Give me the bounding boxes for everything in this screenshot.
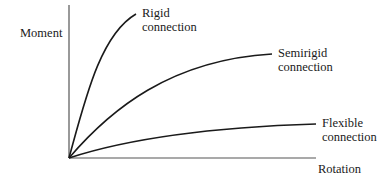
y-axis-label: Moment <box>20 26 62 40</box>
flexible-label-line1: Flexible <box>322 116 377 130</box>
flexible-connection-curve <box>69 124 316 158</box>
semirigid-label-line2: connection <box>278 60 333 74</box>
moment-rotation-diagram: Moment Rotation Rigid connection Semirig… <box>0 0 392 183</box>
rigid-connection-curve <box>69 14 136 158</box>
rigid-label-line2: connection <box>142 20 197 34</box>
rigid-connection-label: Rigid connection <box>142 6 197 34</box>
flexible-connection-label: Flexible connection <box>322 116 377 144</box>
semirigid-label-line1: Semirigid <box>278 46 333 60</box>
semirigid-connection-label: Semirigid connection <box>278 46 333 74</box>
semirigid-connection-curve <box>69 54 272 158</box>
flexible-label-line2: connection <box>322 130 377 144</box>
x-axis-label: Rotation <box>318 162 361 176</box>
rigid-label-line1: Rigid <box>142 6 197 20</box>
